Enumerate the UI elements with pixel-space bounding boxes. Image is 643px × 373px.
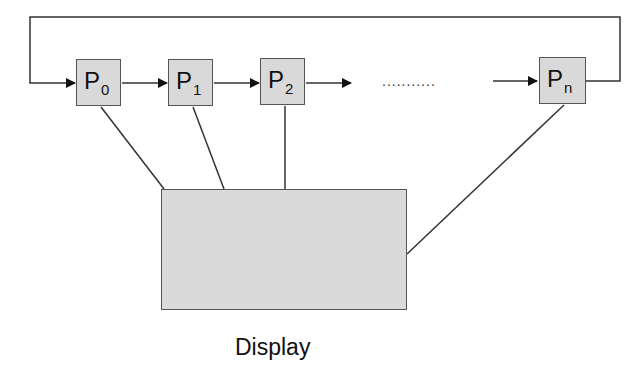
process-label: P <box>547 65 563 93</box>
link-pn-display <box>407 105 564 254</box>
process-p1: P 1 <box>168 59 213 106</box>
process-subscript: 0 <box>101 81 109 98</box>
display-label: Display <box>235 334 310 361</box>
display-box <box>161 189 407 310</box>
process-label: P <box>268 66 284 94</box>
process-subscript: 2 <box>285 80 293 97</box>
link-p0-display <box>101 107 164 189</box>
ellipsis: ........... <box>382 73 436 89</box>
process-subscript: 1 <box>193 81 201 98</box>
process-subscript: n <box>564 79 572 96</box>
link-p1-display <box>193 107 224 189</box>
process-pn: P n <box>539 57 586 104</box>
process-label: P <box>176 67 192 95</box>
process-label: P <box>84 67 100 95</box>
connector-lines: ........... <box>0 0 643 373</box>
process-p2: P 2 <box>260 58 305 105</box>
process-p0: P 0 <box>76 59 121 106</box>
